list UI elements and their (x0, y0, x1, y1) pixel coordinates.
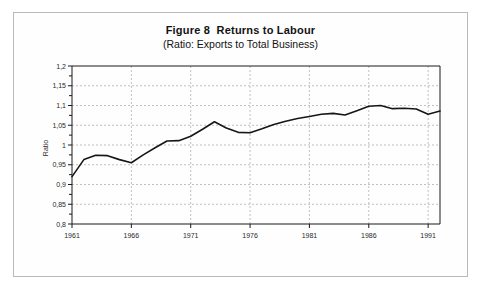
x-tick-label: 1976 (242, 232, 258, 239)
y-tick-label: 0,8 (56, 221, 66, 228)
y-tick-label: 1,1 (56, 102, 66, 109)
y-tick-label: 0,9 (56, 181, 66, 188)
x-tick-label: 1971 (183, 232, 199, 239)
y-tick-label: 1,15 (52, 82, 66, 89)
y-tick-label: 0,85 (52, 201, 66, 208)
chart-canvas: 0,80,850,90,9511,051,11,151,219611966197… (0, 0, 481, 290)
y-tick-label: 0,95 (52, 161, 66, 168)
x-tick-label: 1961 (64, 232, 80, 239)
axis-tick-labels: 0,80,850,90,9511,051,11,151,219611966197… (52, 63, 436, 240)
series-line (72, 106, 440, 177)
axis-ticks (68, 66, 428, 228)
y-tick-label: 1,05 (52, 122, 66, 129)
y-tick-label: 1,2 (56, 63, 66, 70)
grid-lines (72, 66, 440, 224)
x-tick-label: 1991 (420, 232, 436, 239)
y-axis-label-text: Ratio (42, 140, 49, 156)
x-tick-label: 1966 (124, 232, 140, 239)
y-tick-label: 1 (62, 142, 66, 149)
y-axis-label: Ratio (42, 140, 49, 156)
x-tick-label: 1986 (361, 232, 377, 239)
x-tick-label: 1981 (302, 232, 318, 239)
data-series (72, 106, 440, 177)
